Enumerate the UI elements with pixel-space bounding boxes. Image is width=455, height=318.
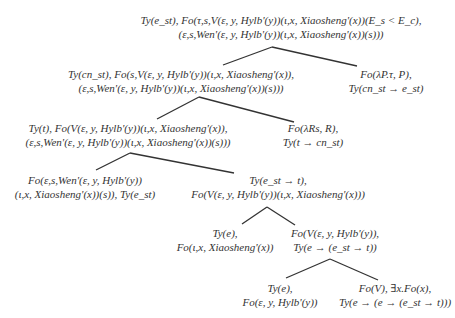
node-line: Ty(t → cn_st) xyxy=(273,135,353,149)
edge-n1-n3 xyxy=(157,97,199,119)
node-line: Ty(e → (e_st → t)) xyxy=(280,240,390,254)
node-n4: Fo(λRs, R), Ty(t → cn_st) xyxy=(273,121,353,149)
edge-n3-n6 xyxy=(130,153,234,173)
edge-root-n1 xyxy=(223,47,272,65)
node-n3: Ty(t), Fo(V(ε, y, Hylb'(y))(ι,x, Xiaoshe… xyxy=(8,121,248,149)
node-line: Fo(ε,s,Wen'(ε, y, Hylb'(y)) xyxy=(5,173,165,187)
derivation-tree: Ty(e_st), Fo(τ,s,V(ε, y, Hylb'(y))(ι,x, … xyxy=(0,0,455,318)
node-line: (ε,s,Wen'(ε, y, Hylb'(y))(ι,x, Xiaosheng… xyxy=(136,27,426,41)
node-n2: Fo(λP.τ, P), Ty(cn_st → e_st) xyxy=(341,67,431,95)
node-line: Ty(cn_st), Fo(s,V(ε, y, Hylb'(y))(ι,x, X… xyxy=(56,67,306,81)
node-line: Ty(t), Fo(V(ε, y, Hylb'(y))(ι,x, Xiaoshe… xyxy=(8,121,248,135)
node-n8: Fo(V(ε, y, Hylb'(y)), Ty(e → (e_st → t)) xyxy=(280,226,390,254)
edge-n8-n10 xyxy=(330,259,378,280)
node-n9: Ty(e), Fo(ε, y, Hylb'(y)) xyxy=(230,281,330,309)
node-n5: Fo(ε,s,Wen'(ε, y, Hylb'(y)) (ι,x, Xiaosh… xyxy=(5,173,165,201)
node-line: Fo(V(ε, y, Hylb'(y)), xyxy=(280,226,390,240)
node-line: Fo(ε, y, Hylb'(y)) xyxy=(230,295,330,309)
edge-n6-n7 xyxy=(242,207,267,224)
node-n1: Ty(cn_st), Fo(s,V(ε, y, Hylb'(y))(ι,x, X… xyxy=(56,67,306,95)
node-line: Ty(e), xyxy=(170,226,280,240)
node-line: Ty(e → (e → (e_st → t))) xyxy=(335,295,455,309)
node-line: (ε,s,Wen'(ε, y, Hylb'(y))(ι,x, Xiaosheng… xyxy=(8,135,248,149)
node-line: Ty(e_st), Fo(τ,s,V(ε, y, Hylb'(y))(ι,x, … xyxy=(136,13,426,27)
node-n10: Fo(V), ∃x.Fo(x), Ty(e → (e → (e_st → t))… xyxy=(335,281,455,309)
node-n6: Ty(e_st → t), Fo(V(ε, y, Hylb'(y))(ι,x, … xyxy=(178,173,378,201)
node-line: (ε,s,Wen'(ε, y, Hylb'(y))(ι,x, Xiaosheng… xyxy=(56,81,306,95)
tree-edges xyxy=(0,0,455,318)
node-line: Fo(λP.τ, P), xyxy=(341,67,431,81)
edge-n1-n4 xyxy=(199,97,294,122)
node-line: Ty(e_st → t), xyxy=(178,173,378,187)
node-root: Ty(e_st), Fo(τ,s,V(ε, y, Hylb'(y))(ι,x, … xyxy=(136,13,426,41)
edge-root-n2 xyxy=(272,47,357,66)
edge-n6-n8 xyxy=(267,207,295,225)
node-line: Fo(λRs, R), xyxy=(273,121,353,135)
node-line: Fo(V), ∃x.Fo(x), xyxy=(335,281,455,295)
node-line: Ty(cn_st → e_st) xyxy=(341,81,431,95)
node-n7: Ty(e), Fo(ι,x, Xiaosheng'(x)) xyxy=(170,226,280,254)
node-line: Fo(V(ε, y, Hylb'(y))(ι,x, Xiaosheng'(x))… xyxy=(178,187,378,201)
node-line: Fo(ι,x, Xiaosheng'(x)) xyxy=(170,240,280,254)
node-line: Ty(e), xyxy=(230,281,330,295)
edge-n3-n5 xyxy=(96,153,130,170)
edge-n8-n9 xyxy=(286,259,330,278)
node-line: (ι,x, Xiaosheng'(x))(s)), Ty(e_st) xyxy=(5,187,165,201)
